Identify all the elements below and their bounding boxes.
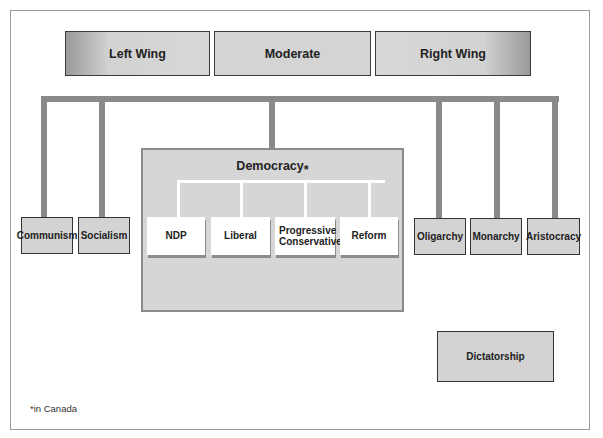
party-reform: Reform	[340, 217, 398, 255]
socialism-label: Socialism	[81, 230, 128, 242]
dictatorship-box: Dictatorship	[437, 331, 554, 382]
monarchy-box: Monarchy	[470, 218, 522, 255]
left-wing-label: Left Wing	[109, 47, 166, 61]
communism-box: Communism	[21, 217, 73, 254]
connector-socialism	[99, 96, 105, 218]
party-connector-horizontal	[177, 180, 385, 183]
monarchy-label: Monarchy	[472, 231, 519, 243]
connector-monarchy	[494, 96, 500, 218]
party-connector-liberal	[240, 180, 243, 218]
connector-communism	[41, 96, 47, 218]
aristocracy-label: Aristocracy	[526, 231, 581, 243]
party-reform-label: Reform	[351, 230, 386, 242]
horizontal-connector	[41, 96, 559, 102]
right-wing-header: Right Wing	[375, 31, 531, 76]
connector-oligarchy	[436, 96, 442, 218]
dictatorship-label: Dictatorship	[466, 351, 524, 363]
party-connector-ndp	[177, 180, 180, 218]
party-progressive-conservative: Progressive Conservative	[275, 217, 335, 255]
party-ndp: NDP	[147, 217, 205, 255]
oligarchy-label: Oligarchy	[417, 231, 463, 243]
footnote: *in Canada	[30, 403, 77, 414]
oligarchy-box: Oligarchy	[414, 218, 466, 255]
aristocracy-box: Aristocracy	[527, 218, 580, 255]
connector-aristocracy	[552, 96, 558, 218]
party-liberal: Liberal	[211, 217, 270, 255]
socialism-box: Socialism	[78, 217, 130, 254]
moderate-label: Moderate	[265, 47, 321, 61]
moderate-header: Moderate	[214, 31, 371, 76]
party-pc-label: Progressive Conservative	[279, 225, 331, 248]
party-ndp-label: NDP	[165, 230, 186, 242]
party-liberal-label: Liberal	[224, 230, 257, 242]
connector-democracy	[269, 96, 275, 149]
left-wing-header: Left Wing	[65, 31, 210, 76]
right-wing-label: Right Wing	[420, 47, 486, 61]
democracy-title: Democracy*	[143, 159, 402, 173]
communism-label: Communism	[17, 230, 78, 242]
democracy-label: Democracy	[236, 159, 303, 173]
footnote-marker: *	[304, 163, 309, 177]
party-connector-pc	[304, 180, 307, 218]
party-connector-reform	[368, 180, 371, 218]
